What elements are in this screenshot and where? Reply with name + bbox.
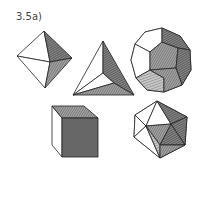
platonic-solids-figure	[0, 0, 201, 199]
octahedron-shape	[17, 31, 72, 88]
icosahedron-shape	[134, 101, 187, 158]
tetrahedron-shape	[73, 41, 134, 95]
dodecahedron-shape	[131, 28, 191, 92]
cube-shape	[52, 106, 98, 157]
